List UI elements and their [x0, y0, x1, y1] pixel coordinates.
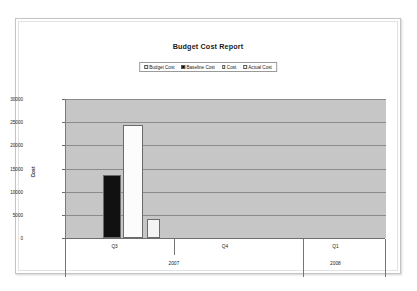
y-axis-tick-label: 10000 — [10, 189, 23, 194]
x-axis-year-separator — [303, 239, 304, 277]
x-axis-quarter-separator — [174, 239, 175, 255]
legend-item-budget-cost: Budget Cost — [144, 65, 174, 70]
y-axis-tick-label: 30000 — [10, 97, 23, 102]
legend-label: Actual Cost — [248, 65, 272, 70]
gridline — [66, 169, 386, 170]
legend-label: Baseline Cost — [187, 65, 215, 70]
page-inner-border: Budget Cost Report Budget Cost Baseline … — [18, 21, 398, 271]
y-axis-tick-label: 15000 — [10, 166, 23, 171]
x-axis-year-label: 2008 — [330, 261, 341, 266]
y-axis-tick-label: 5000 — [13, 212, 23, 217]
legend-swatch-icon — [182, 65, 186, 69]
legend-swatch-icon — [144, 65, 148, 69]
x-axis-year-label: 2007 — [168, 261, 179, 266]
gridline — [66, 145, 386, 146]
legend-item-baseline-cost: Baseline Cost — [182, 65, 215, 70]
x-axis-quarter-label: Q4 — [222, 244, 228, 249]
x-axis-right-rule — [385, 239, 386, 277]
plot-area — [65, 99, 386, 238]
scanned-page-sheet: Budget Cost Report Budget Cost Baseline … — [15, 18, 401, 274]
legend-item-cost: Cost — [222, 65, 236, 70]
gridline — [66, 122, 386, 123]
x-axis-quarter-label: Q1 — [332, 244, 338, 249]
budget-cost-report-chart: Budget Cost Report Budget Cost Baseline … — [19, 22, 397, 270]
x-axis-left-rule — [65, 239, 66, 277]
x-axis-region: Q3Q4Q120072008 — [65, 239, 385, 277]
y-axis-tick-label: 0 — [20, 236, 23, 241]
legend-swatch-icon — [243, 65, 247, 69]
bar-cost — [147, 219, 160, 238]
legend-swatch-icon — [222, 65, 226, 69]
y-axis-tick-label: 25000 — [10, 120, 23, 125]
legend-label: Budget Cost — [149, 65, 174, 70]
bar-baseline-cost — [103, 175, 121, 238]
y-axis-title: Cost — [30, 166, 36, 177]
legend-item-actual-cost: Actual Cost — [243, 65, 272, 70]
y-axis-tick-label: 20000 — [10, 143, 23, 148]
x-axis-quarter-label: Q3 — [111, 244, 117, 249]
chart-title: Budget Cost Report — [19, 42, 397, 51]
bar-budget-cost — [123, 125, 143, 238]
gridline — [66, 99, 386, 100]
legend-label: Cost — [227, 65, 236, 70]
chart-legend: Budget Cost Baseline Cost Cost Actual Co… — [139, 62, 277, 72]
